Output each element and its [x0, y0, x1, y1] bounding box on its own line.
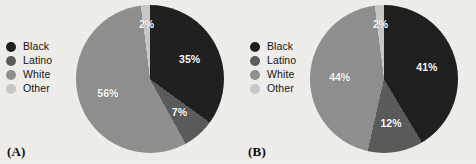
legend-swatch-other-icon [6, 84, 16, 94]
panel-b-tag: (B) [248, 144, 266, 160]
legend-a: Black Latino White Other [6, 40, 52, 95]
pie-chart-a: 35% 7% 56% 2% [76, 5, 224, 153]
legend-item-black: Black [6, 40, 52, 53]
legend-label-white: White [23, 68, 50, 81]
pie-chart-b: 41% 12% 44% 2% [310, 5, 458, 153]
legend-label-white: White [267, 68, 294, 81]
legend-swatch-black-icon [6, 42, 16, 52]
legend-swatch-other-icon [250, 84, 260, 94]
legend-item-other: Other [250, 82, 296, 95]
pie-a-label-white: 56% [97, 87, 118, 99]
legend-item-latino: Latino [6, 54, 52, 67]
legend-item-white: White [6, 68, 52, 81]
legend-swatch-white-icon [6, 70, 16, 80]
panel-a: Black Latino White Other 35% 7% 56% 2% (… [0, 0, 238, 164]
legend-item-other: Other [6, 82, 52, 95]
pie-b-label-white: 44% [329, 71, 350, 83]
legend-swatch-latino-icon [6, 56, 16, 66]
legend-item-latino: Latino [250, 54, 296, 67]
legend-item-black: Black [250, 40, 296, 53]
legend-swatch-black-icon [250, 42, 260, 52]
legend-item-white: White [250, 68, 296, 81]
pie-a-label-other: 2% [139, 18, 154, 30]
panel-a-tag: (A) [7, 144, 26, 160]
legend-swatch-latino-icon [250, 56, 260, 66]
legend-swatch-white-icon [250, 70, 260, 80]
pie-b-label-black: 41% [416, 61, 437, 73]
legend-label-other: Other [267, 82, 294, 95]
legend-label-latino: Latino [267, 54, 296, 67]
legend-label-other: Other [23, 82, 50, 95]
legend-label-black: Black [267, 40, 293, 53]
pie-b-label-latino: 12% [380, 117, 401, 129]
pie-a-label-latino: 7% [172, 106, 187, 118]
legend-b: Black Latino White Other [250, 40, 296, 95]
pie-b-label-other: 2% [373, 18, 388, 30]
legend-label-black: Black [23, 40, 49, 53]
pie-a-label-black: 35% [179, 53, 200, 65]
legend-label-latino: Latino [23, 54, 52, 67]
panel-b: Black Latino White Other 41% 12% 44% 2% … [238, 0, 476, 164]
pie-chart-figure: Black Latino White Other 35% 7% 56% 2% (… [0, 0, 476, 164]
